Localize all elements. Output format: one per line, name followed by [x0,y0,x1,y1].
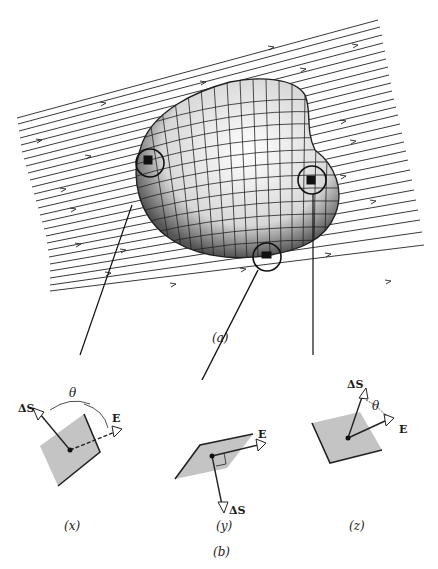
caption-z: (z) [349,519,365,533]
caption-b: (b) [213,545,230,559]
panel-x [33,401,122,486]
caption-a: (a) [212,331,229,345]
label-theta-z: θ [372,399,379,413]
label-theta-x: θ [69,386,76,400]
circled-element-y [202,243,281,380]
label-delta-s-x: ΔS [18,402,34,415]
label-e-y: E [258,428,266,441]
label-e-z: E [399,423,407,436]
label-delta-s-z: ΔS [347,378,363,391]
gauss-flux-diagram [0,0,438,569]
label-e-x: E [112,412,120,425]
caption-x: (x) [64,519,80,533]
panel-y [175,434,266,513]
panel-z [312,388,394,463]
label-delta-s-y: ΔS [229,504,245,517]
caption-y: (y) [216,519,232,533]
